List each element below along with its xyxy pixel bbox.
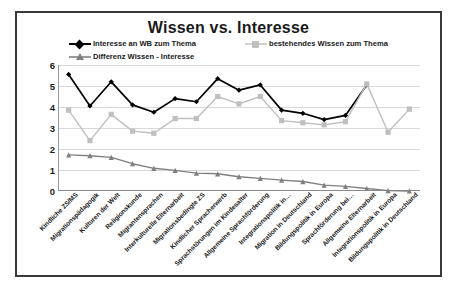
plot-area-wrapper: 0123456 Kindliche ZS/MSMigrationspädagog…	[17, 13, 444, 279]
square-marker-icon	[385, 130, 390, 135]
square-marker-icon	[279, 118, 284, 123]
square-marker-icon	[364, 81, 369, 86]
square-marker-icon	[343, 119, 348, 124]
y-axis: 0123456	[35, 65, 55, 191]
y-axis-tick: 0	[35, 186, 55, 197]
square-marker-icon	[173, 116, 178, 121]
x-axis-tick-label: Kindliche ZS/MS	[38, 191, 79, 232]
y-axis-tick: 2	[35, 144, 55, 155]
plot-area	[58, 65, 420, 191]
square-marker-icon	[130, 129, 135, 134]
square-marker-icon	[87, 138, 92, 143]
diamond-marker-icon	[300, 111, 305, 116]
y-axis-tick: 4	[35, 102, 55, 113]
diamond-marker-icon	[322, 117, 327, 122]
square-marker-icon	[407, 107, 412, 112]
square-marker-icon	[194, 116, 199, 121]
x-axis-labels: Kindliche ZS/MSMigrationspädagogikKultur…	[58, 191, 420, 279]
square-marker-icon	[66, 108, 71, 113]
square-marker-icon	[151, 131, 156, 136]
series-triangle	[66, 152, 412, 193]
square-marker-icon	[215, 94, 220, 99]
y-axis-tick: 3	[35, 123, 55, 134]
square-marker-icon	[236, 101, 241, 106]
y-axis-tick: 6	[35, 60, 55, 71]
chart-frame: Wissen vs. Interesse Interesse an WB zum…	[15, 11, 442, 277]
series-canvas	[58, 65, 420, 191]
square-marker-icon	[258, 94, 263, 99]
y-axis-tick: 5	[35, 81, 55, 92]
y-axis-tick: 1	[35, 165, 55, 176]
square-marker-icon	[109, 112, 114, 117]
square-marker-icon	[300, 120, 305, 125]
series-line	[69, 155, 410, 191]
square-marker-icon	[322, 122, 327, 127]
